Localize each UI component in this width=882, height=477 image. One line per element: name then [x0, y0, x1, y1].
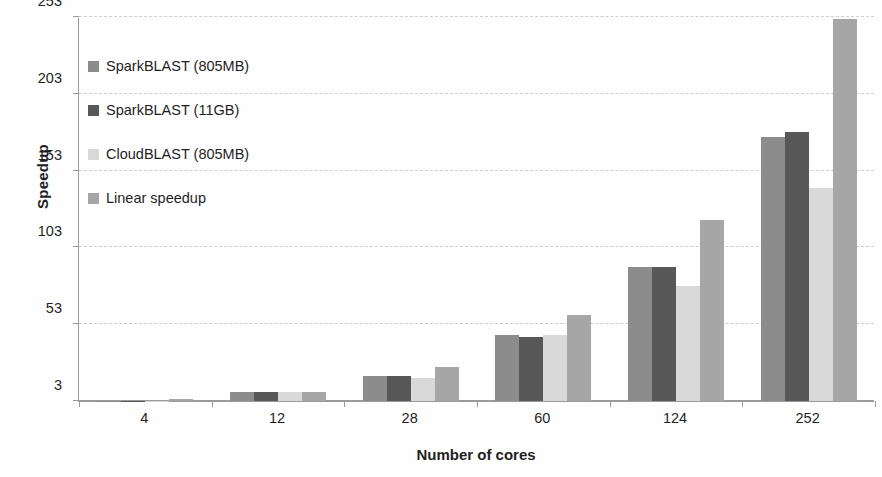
y-axis-tick-label: 153 [2, 147, 62, 163]
y-axis-tick-label: 253 [2, 0, 62, 9]
bar [121, 401, 145, 402]
x-axis-tick-label: 252 [748, 410, 868, 426]
x-axis-tick-mark [477, 401, 478, 407]
bar [495, 335, 519, 401]
x-axis-tick-mark [212, 401, 213, 407]
legend-swatch-icon [88, 105, 99, 116]
bar [785, 132, 809, 401]
bar [435, 367, 459, 401]
bar [700, 220, 724, 401]
bar-group [344, 18, 477, 401]
x-axis-tick-label: 124 [615, 410, 735, 426]
bar [278, 392, 302, 401]
legend-item: SparkBLAST (11GB) [88, 88, 348, 132]
bar [567, 315, 591, 401]
y-axis-tick-mark [73, 16, 79, 17]
bar [387, 376, 411, 401]
bar [169, 399, 193, 401]
y-axis-tick-label: 53 [2, 300, 62, 316]
bar [652, 267, 676, 401]
bar-group [610, 18, 743, 401]
x-axis-tick-mark [344, 401, 345, 407]
bar [761, 137, 785, 401]
legend-item: Linear speedup [88, 176, 348, 220]
bar [254, 392, 278, 401]
legend-label: CloudBLAST (805MB) [106, 146, 249, 162]
speedup-bar-chart: Speedup 353103153203253 4122860124252 Nu… [0, 0, 882, 477]
x-axis-tick-mark [875, 401, 876, 407]
legend-swatch-icon [88, 149, 99, 160]
y-axis-tick-label: 203 [2, 70, 62, 86]
legend: SparkBLAST (805MB)SparkBLAST (11GB)Cloud… [88, 44, 348, 220]
bar [230, 392, 254, 401]
x-axis-title: Number of cores [78, 446, 874, 463]
gridline [79, 16, 874, 17]
x-axis-tick-mark [610, 401, 611, 407]
bar [543, 335, 567, 401]
x-axis-tick-label: 60 [482, 410, 602, 426]
legend-label: Linear speedup [106, 190, 206, 206]
bar-group [477, 18, 610, 401]
bar [302, 392, 326, 401]
bar [97, 401, 121, 402]
bar [833, 19, 857, 401]
bar [809, 188, 833, 402]
bar [145, 401, 169, 402]
legend-swatch-icon [88, 193, 99, 204]
x-axis-tick-label: 4 [84, 410, 204, 426]
bar [411, 378, 435, 401]
y-axis-tick-label: 103 [2, 223, 62, 239]
legend-label: SparkBLAST (11GB) [106, 102, 239, 118]
bar-group [742, 18, 875, 401]
x-axis-tick-mark [79, 401, 80, 407]
legend-label: SparkBLAST (805MB) [106, 58, 249, 74]
legend-swatch-icon [88, 61, 99, 72]
bar [676, 286, 700, 401]
x-axis-tick-label: 12 [217, 410, 337, 426]
legend-item: SparkBLAST (805MB) [88, 44, 348, 88]
y-axis-tick-label: 3 [2, 377, 62, 393]
bar [628, 267, 652, 401]
legend-item: CloudBLAST (805MB) [88, 132, 348, 176]
y-axis-title: Speedup [34, 117, 51, 237]
bar [519, 337, 543, 402]
x-axis-tick-label: 28 [350, 410, 470, 426]
x-axis-tick-mark [742, 401, 743, 407]
bar [363, 376, 387, 401]
